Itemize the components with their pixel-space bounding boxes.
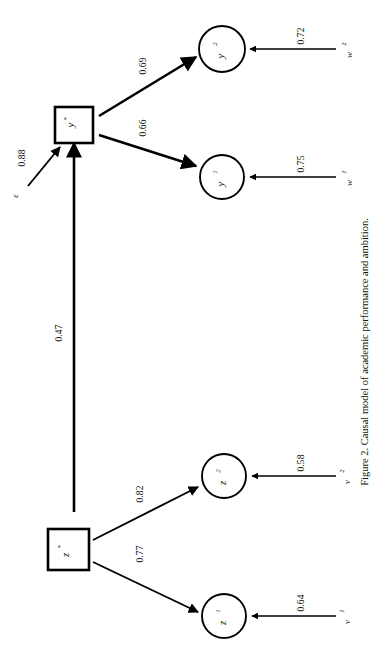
edge-label-0-64: 0.64 <box>296 594 306 611</box>
node-label-y1-base: y <box>215 181 226 187</box>
node-box-zstar <box>48 529 89 570</box>
node-label-ystar-base: y <box>65 122 76 128</box>
causal-model-diagram: 0.47 0.88 ε y * 0.69 0.66 y 2 0.72 w 2 y… <box>0 0 385 664</box>
edge-label-0-72: 0.72 <box>296 27 306 44</box>
figure-page: 0.47 0.88 ε y * 0.69 0.66 y 2 0.72 w 2 y… <box>0 0 385 664</box>
residual-label-v2-base: v <box>342 480 352 484</box>
node-label-z2-base: z <box>217 481 228 486</box>
edge-zstar-to-z2 <box>93 487 198 540</box>
node-label-ystar-star: * <box>62 117 70 121</box>
edge-ystar-to-y1 <box>99 135 196 166</box>
node-label-z1-sub: 1 <box>214 609 222 613</box>
node-label-z2-sub: 2 <box>214 469 222 473</box>
residual-label-w1-base: w <box>344 180 354 186</box>
edge-label-0-58: 0.58 <box>296 454 306 471</box>
residual-label-v2-sub: 2 <box>338 469 345 473</box>
node-circle-z1 <box>202 594 246 638</box>
residual-label-w2-sub: 2 <box>340 42 347 46</box>
edge-label-0-66: 0.66 <box>138 119 148 136</box>
residual-label-v1-base: v <box>342 620 352 624</box>
node-label-zstar-star: * <box>56 545 64 549</box>
edge-label-0-77: 0.77 <box>135 545 145 562</box>
node-circle-z2 <box>202 454 246 498</box>
node-label-y2-base: y <box>215 53 226 59</box>
residual-label-w2-base: w <box>344 52 354 58</box>
edge-label-0-47: 0.47 <box>54 324 64 341</box>
edge-zstar-to-z1 <box>93 562 198 612</box>
residual-label-epsilon: ε <box>10 194 20 198</box>
edge-epsilon-to-ystar <box>28 147 60 186</box>
node-label-zstar-base: z <box>60 553 71 558</box>
edge-label-0-75: 0.75 <box>296 155 306 172</box>
figure-caption: Figure 2. Causal model of academic perfo… <box>359 218 370 486</box>
edge-label-0-82: 0.82 <box>135 485 145 502</box>
edge-label-0-88: 0.88 <box>17 149 27 166</box>
node-circle-y2 <box>199 26 245 72</box>
node-label-y2-sub: 2 <box>211 42 219 46</box>
node-label-z1-base: z <box>217 621 228 626</box>
residual-label-w1-sub: 1 <box>340 170 347 173</box>
node-circle-y1 <box>200 155 244 199</box>
node-label-y1-sub: 1 <box>211 170 219 174</box>
edge-label-0-69: 0.69 <box>138 57 148 74</box>
residual-label-v1-sub: 1 <box>338 609 345 612</box>
